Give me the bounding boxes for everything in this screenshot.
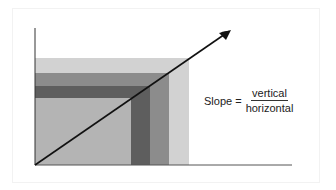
fraction-denominator: horizontal — [246, 101, 294, 114]
fraction-numerator: vertical — [251, 87, 288, 101]
arrowhead-icon — [219, 30, 231, 40]
slope-formula: Slope = vertical horizontal — [204, 87, 293, 114]
formula-lhs: Slope = — [204, 95, 242, 107]
fraction: vertical horizontal — [246, 87, 294, 114]
